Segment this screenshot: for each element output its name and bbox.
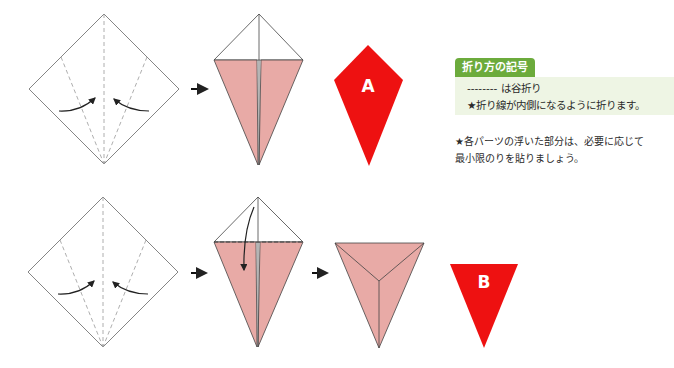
valley-fold-note: ★折り線が内側になるように折ります。 <box>467 97 645 112</box>
row2-step1-square <box>28 197 178 347</box>
row1-step2-kite <box>214 14 303 165</box>
part-a-label: A <box>361 76 375 96</box>
legend-title: 折り方の記号 <box>455 58 535 77</box>
row2-step2-kite <box>214 197 303 347</box>
valley-fold-symbol-text: -------- は谷折り <box>467 80 541 95</box>
part-a-shape: A <box>334 45 403 166</box>
row2-step3-triangle <box>335 243 424 348</box>
glue-note: ★各パーツの浮いた部分は、必要に応じて 最小限のりを貼りましょう。 <box>455 133 674 167</box>
glue-note-line1: ★各パーツの浮いた部分は、必要に応じて <box>455 133 674 150</box>
row1-step1-square <box>29 14 179 164</box>
origami-diagram: A B <box>0 0 674 368</box>
glue-note-line2: 最小限のりを貼りましょう。 <box>455 150 674 167</box>
part-b-shape: B <box>450 264 518 348</box>
legend-box: -------- は谷折り ★折り線が内側になるように折ります。 <box>455 77 674 115</box>
part-b-label: B <box>478 272 491 292</box>
